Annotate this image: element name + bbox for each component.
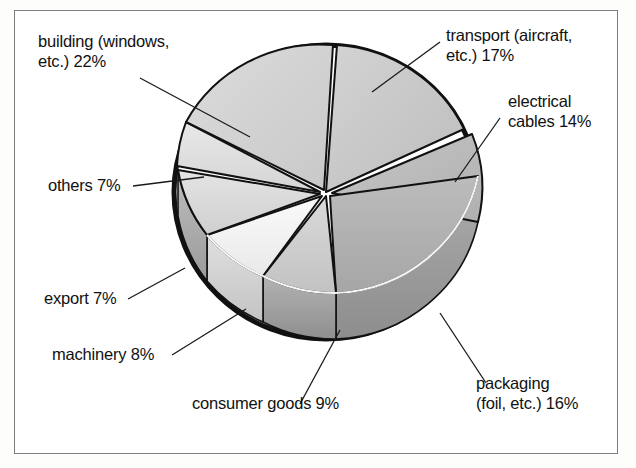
figure-page: building (windows, etc.) 22% transport (… <box>0 0 636 468</box>
leader-packaging <box>440 313 486 383</box>
label-export: export 7% <box>44 289 154 309</box>
label-packaging: packaging (foil, etc.) 16% <box>476 374 636 413</box>
label-transport: transport (aircraft, etc.) 17% <box>446 26 626 65</box>
label-building: building (windows, etc.) 22% <box>38 32 238 71</box>
label-others: others 7% <box>48 176 158 196</box>
label-electrical-cables: electrical cables 14% <box>508 92 632 131</box>
label-consumer-goods: consumer goods 9% <box>192 394 382 414</box>
label-machinery: machinery 8% <box>52 345 192 365</box>
